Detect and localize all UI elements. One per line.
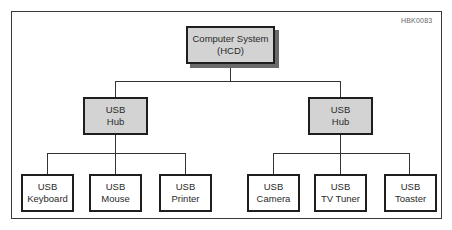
connector-hub2-up xyxy=(340,81,341,97)
connector-printer xyxy=(185,153,186,174)
connector-hub2-bar xyxy=(273,153,410,154)
node-label: Hub xyxy=(107,116,124,128)
connector-hub1-down xyxy=(115,135,116,153)
node-label: USB xyxy=(176,181,196,193)
device-node-printer: USB Printer xyxy=(159,174,212,212)
node-label: USB xyxy=(331,181,351,193)
root-node-computer-system: Computer System (HCD) xyxy=(186,26,275,64)
device-node-camera: USB Camera xyxy=(247,174,300,212)
node-label: TV Tuner xyxy=(321,193,360,205)
node-label: Printer xyxy=(172,193,200,205)
device-node-toaster: USB Toaster xyxy=(384,174,437,212)
node-label: USB xyxy=(38,181,58,193)
connector-hub1-bar xyxy=(47,153,186,154)
node-label: USB xyxy=(264,181,284,193)
node-label: Hub xyxy=(332,116,349,128)
connector-hub1-up xyxy=(115,81,116,97)
device-node-mouse: USB Mouse xyxy=(89,174,142,212)
node-label: Camera xyxy=(257,193,291,205)
connector-root-bar xyxy=(115,81,341,82)
node-label: USB xyxy=(106,181,126,193)
connector-keyboard xyxy=(47,153,48,174)
node-label: USB xyxy=(331,104,351,116)
connector-toaster xyxy=(409,153,410,174)
node-label: (HCD) xyxy=(217,45,244,57)
connector-mouse xyxy=(115,153,116,174)
node-label: Toaster xyxy=(395,193,426,205)
hub-node-right: USB Hub xyxy=(308,97,373,135)
figure-code: HBK0083 xyxy=(401,17,432,24)
hub-node-left: USB Hub xyxy=(83,97,148,135)
device-node-keyboard: USB Keyboard xyxy=(21,174,74,212)
node-label: USB xyxy=(401,181,421,193)
node-label: Mouse xyxy=(101,193,130,205)
node-label: Computer System xyxy=(192,33,268,45)
connector-camera xyxy=(273,153,274,174)
connector-tvtuner xyxy=(340,153,341,174)
node-label: USB xyxy=(106,104,126,116)
connector-hub2-down xyxy=(340,135,341,153)
device-node-tv-tuner: USB TV Tuner xyxy=(314,174,367,212)
node-label: Keyboard xyxy=(27,193,68,205)
